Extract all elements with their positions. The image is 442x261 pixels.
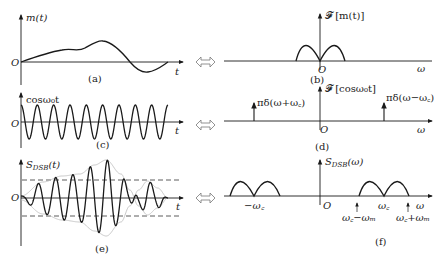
xlabel-e: t [176, 201, 181, 212]
xlabel-d: ω [417, 124, 425, 135]
impulse-label-right: πδ(ω−ω꜀) [386, 92, 434, 103]
tick-neg-wc: −ω꜀ [244, 200, 265, 211]
caption-b: (b) [310, 74, 324, 85]
panel-f: SDSB(ω) −ω꜀ O ω꜀ ω ω꜀−ωₘ ω꜀+ωₘ (f) [224, 156, 432, 247]
panel-e: SDSB(t) O t (e) [11, 159, 183, 254]
origin-f: O [323, 200, 331, 211]
caption-d: (d) [315, 141, 329, 152]
tick-wc: ω꜀ [378, 200, 390, 211]
tick-wc-minus-wm: ω꜀−ωₘ [342, 212, 376, 223]
origin-d: O [320, 124, 328, 135]
panel-b: 𝓕 [m(t)] O ω (b) [224, 10, 432, 85]
message-curve [21, 41, 168, 72]
spectrum-pos-wc [359, 182, 409, 197]
spectrum-neg-wc [230, 182, 280, 197]
origin-e: O [11, 192, 19, 203]
xlabel-f: ω [416, 200, 424, 211]
ylabel-b: 𝓕 [m(t)] [325, 10, 364, 21]
tick-wc-plus-wm: ω꜀+ωₘ [396, 212, 430, 223]
xlabel-a: t [175, 66, 180, 77]
caption-a: (a) [88, 73, 102, 84]
ylabel-d: 𝓕 [cosω₀t] [325, 83, 376, 94]
xlabel-c: t [175, 125, 180, 136]
origin-a: O [11, 57, 19, 68]
ylabel-e: SDSB(t) [26, 159, 60, 172]
xlabel-b: ω [417, 63, 425, 74]
dsb-modulation-diagram: m(t) O t (a) 𝓕 [m(t)] O ω (b) cosω₀t O t… [0, 0, 442, 261]
message-spectrum [296, 46, 345, 62]
ylabel-a: m(t) [26, 12, 47, 23]
double-arrow-icon [196, 193, 215, 203]
panel-c: cosω₀t O t (c) [11, 93, 183, 150]
caption-c: (c) [96, 139, 110, 150]
impulse-label-left: πδ(ω+ω꜀) [257, 97, 305, 108]
transform-arrow-3 [196, 193, 215, 203]
panel-d: 𝓕 [cosω₀t] πδ(ω+ω꜀) πδ(ω−ω꜀) O ω (d) [224, 83, 434, 152]
transform-arrow-2 [196, 120, 215, 130]
caption-e: (e) [95, 243, 109, 254]
double-arrow-icon [196, 120, 215, 130]
double-arrow-icon [196, 57, 215, 67]
caption-f: (f) [375, 236, 387, 247]
panel-a: m(t) O t (a) [11, 12, 183, 85]
transform-arrow-1 [196, 57, 215, 67]
ylabel-f: SDSB(ω) [325, 156, 363, 169]
envelope-lower [21, 181, 168, 236]
origin-c: O [11, 118, 19, 129]
ylabel-c: cosω₀t [26, 94, 59, 105]
